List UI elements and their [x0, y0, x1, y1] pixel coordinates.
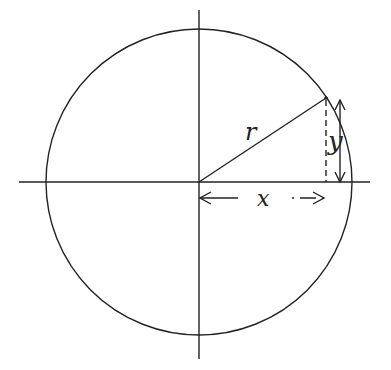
y-label: y — [327, 126, 343, 156]
circle-coordinate-diagram: r x y — [0, 0, 391, 370]
radius-line — [199, 98, 326, 182]
x-label: x — [257, 186, 270, 211]
radius-label: r — [245, 118, 258, 146]
